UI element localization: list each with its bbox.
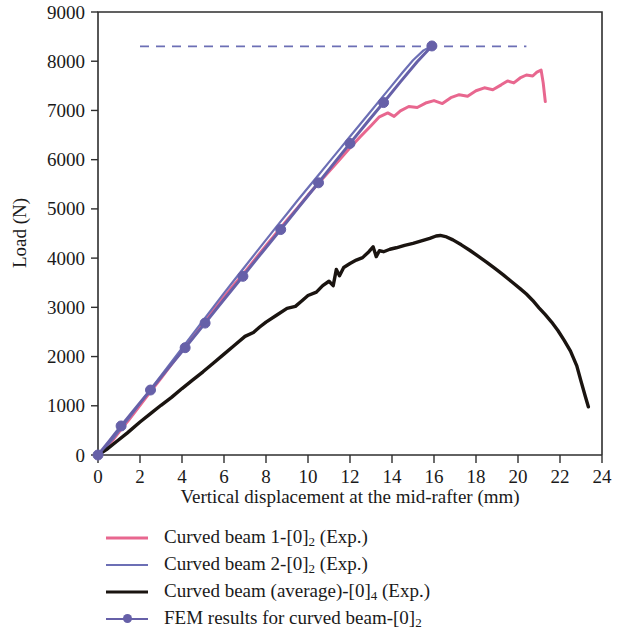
series-marker-3 (180, 343, 190, 353)
series-marker-3 (200, 318, 210, 328)
series-marker-3 (379, 98, 389, 108)
legend-line-icon (106, 536, 148, 539)
legend-line-icon (106, 590, 148, 593)
x-tick-label: 8 (261, 466, 271, 487)
y-tick-label: 9000 (47, 2, 85, 23)
legend-label-2: Curved beam (average)-[0]4 (Exp.) (164, 581, 430, 602)
x-tick-label: 12 (341, 466, 360, 487)
series-line-0 (98, 70, 545, 455)
series-marker-3 (314, 178, 324, 188)
legend-line-icon (106, 564, 148, 566)
y-tick-label: 6000 (47, 149, 85, 170)
y-axis-title: Load (N) (9, 198, 31, 268)
legend-item-3[interactable]: FEM results for curved beam-[0]2 (104, 605, 534, 632)
series-marker-3 (146, 385, 156, 395)
figure-container: 0100020003000400050006000700080009000024… (0, 0, 621, 636)
plot-frame (98, 12, 602, 455)
legend-swatch-0 (104, 530, 150, 546)
legend-item-2[interactable]: Curved beam (average)-[0]4 (Exp.) (104, 578, 534, 605)
x-tick-label: 14 (383, 466, 403, 487)
y-tick-label: 0 (76, 445, 86, 466)
x-tick-label: 0 (93, 466, 103, 487)
x-tick-label: 20 (509, 466, 528, 487)
x-tick-label: 2 (135, 466, 145, 487)
x-axis-title: Vertical displacement at the mid-rafter … (180, 486, 519, 508)
legend-marker-icon (123, 614, 132, 623)
legend-swatch-3 (104, 611, 150, 627)
legend-swatch-1 (104, 557, 150, 573)
x-tick-label: 18 (467, 466, 486, 487)
y-tick-label: 7000 (47, 100, 85, 121)
series-line-2 (98, 235, 588, 455)
y-tick-label: 4000 (47, 248, 85, 269)
y-tick-label: 8000 (47, 51, 85, 72)
chart-legend: Curved beam 1-[0]2 (Exp.)Curved beam 2-[… (104, 524, 534, 632)
x-tick-label: 4 (177, 466, 187, 487)
series-marker-3 (238, 271, 248, 281)
axes-group (91, 12, 602, 463)
series-marker-3 (345, 138, 355, 148)
series-group (93, 41, 588, 460)
y-tick-label: 2000 (47, 346, 85, 367)
x-tick-label: 6 (219, 466, 229, 487)
legend-label-3: FEM results for curved beam-[0]2 (164, 608, 422, 629)
series-marker-3 (116, 421, 126, 431)
x-tick-label: 22 (551, 466, 570, 487)
series-marker-3 (427, 41, 437, 51)
series-marker-3 (276, 225, 286, 235)
x-tick-label: 10 (299, 466, 318, 487)
legend-item-1[interactable]: Curved beam 2-[0]2 (Exp.) (104, 551, 534, 578)
x-tick-label: 24 (593, 466, 613, 487)
legend-swatch-2 (104, 584, 150, 600)
y-tick-label: 5000 (47, 198, 85, 219)
y-tick-label: 1000 (47, 395, 85, 416)
y-tick-label: 3000 (47, 297, 85, 318)
series-marker-3 (93, 450, 103, 460)
legend-label-1: Curved beam 2-[0]2 (Exp.) (164, 554, 368, 575)
x-tick-label: 16 (425, 466, 444, 487)
legend-item-0[interactable]: Curved beam 1-[0]2 (Exp.) (104, 524, 534, 551)
legend-label-0: Curved beam 1-[0]2 (Exp.) (164, 527, 368, 548)
